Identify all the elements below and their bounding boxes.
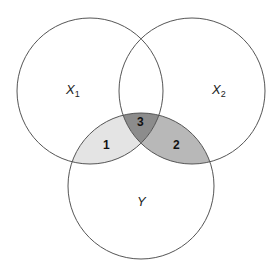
region-3-label: 3 (137, 115, 144, 129)
label-x2: X2 (211, 82, 226, 99)
venn-diagram: X1 X2 Y 1 2 3 (0, 0, 280, 272)
label-x1: X1 (65, 82, 80, 99)
region-2-label: 2 (173, 138, 180, 152)
region-3-shape (0, 0, 280, 272)
label-y: Y (137, 194, 147, 209)
region-1-label: 1 (103, 138, 110, 152)
venn-svg: X1 X2 Y 1 2 3 (0, 0, 280, 272)
